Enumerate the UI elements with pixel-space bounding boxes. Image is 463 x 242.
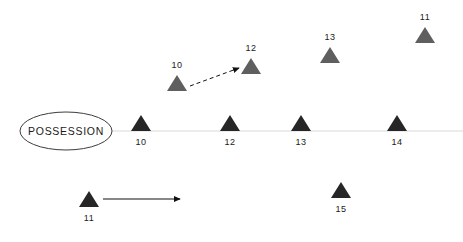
baseline-marker-10 [131,115,151,131]
baseline-marker-14-label: 14 [391,138,402,147]
baseline-marker-10-label: 10 [135,138,146,147]
upper-marker-10 [167,75,187,91]
upper-marker-10-label: 10 [171,61,182,70]
lower-marker-15-label: 15 [335,205,346,214]
lower-marker-11 [79,191,99,207]
upper-marker-13 [320,47,340,63]
lower-marker-11-label: 11 [84,214,95,223]
baseline-marker-13-label: 13 [295,138,306,147]
possession-label: POSSESSION [28,126,104,137]
upper-marker-13-label: 13 [324,33,335,42]
dashed-movement-arrow [190,68,239,86]
diagram-vector-layer [0,0,463,242]
diagram-canvas: POSSESSION 10121314101213111115 [0,0,463,242]
baseline-marker-14 [387,115,407,131]
baseline-marker-12 [220,115,240,131]
upper-marker-11 [415,27,435,43]
upper-marker-12-label: 12 [245,44,256,53]
baseline-marker-13 [291,115,311,131]
upper-marker-12 [241,58,261,74]
upper-marker-11-label: 11 [420,13,431,22]
baseline-marker-12-label: 12 [224,138,235,147]
lower-marker-15 [331,182,351,198]
marker-layer [79,27,435,207]
